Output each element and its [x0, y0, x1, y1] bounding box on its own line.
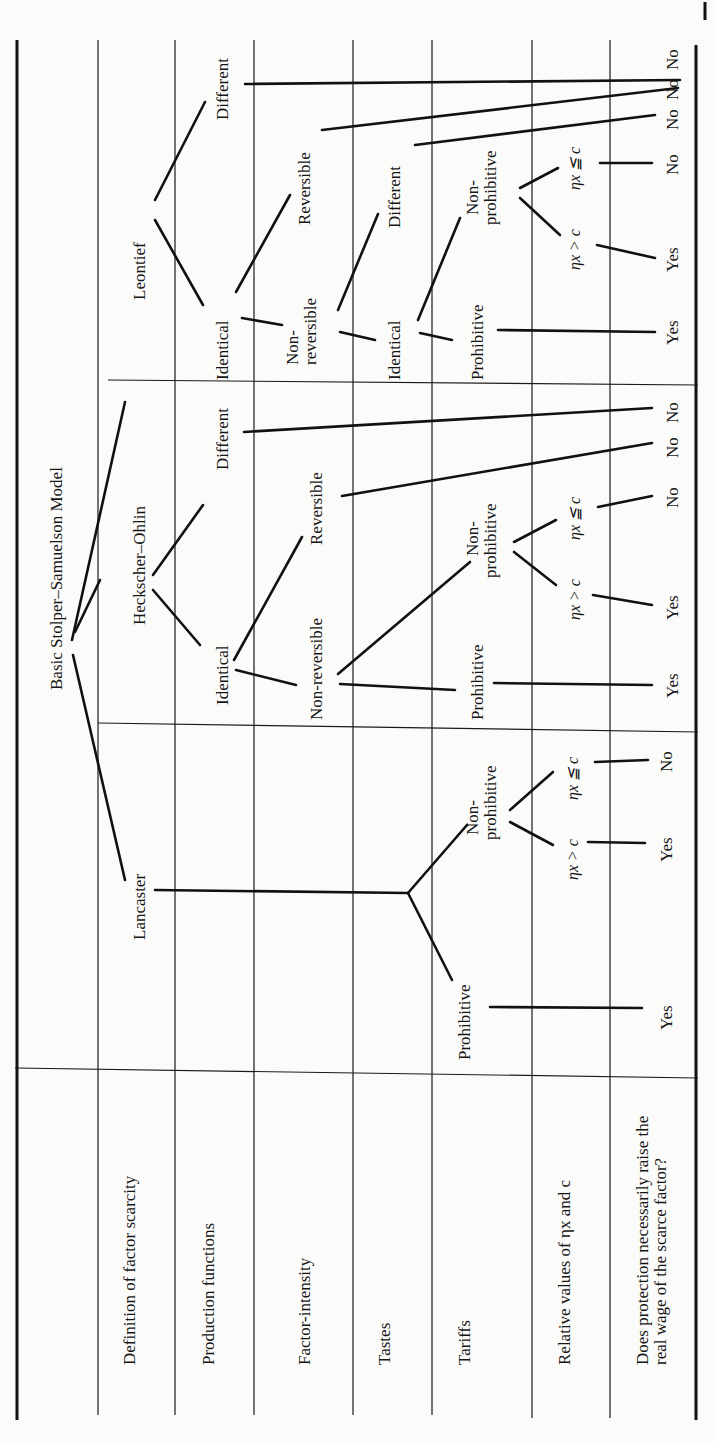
branch — [153, 505, 203, 575]
branch — [520, 168, 558, 188]
answer: Yes — [663, 595, 682, 620]
branch — [244, 408, 652, 432]
branch — [340, 332, 375, 340]
branch — [73, 655, 125, 880]
branch — [408, 825, 467, 893]
ho-nonprob-2: prohibitive — [481, 503, 500, 578]
ho-prod-different: Different — [213, 408, 232, 470]
row-label-question-2: real wage of the scarce factor? — [651, 1158, 670, 1365]
branch — [595, 760, 648, 762]
branch — [498, 330, 655, 332]
branch — [155, 102, 205, 200]
answer: Yes — [657, 1005, 676, 1030]
branch — [236, 670, 296, 685]
leontief-tastes-identical: Identical — [385, 320, 404, 380]
lancaster-answers: Yes Yes No — [657, 751, 676, 1030]
root-node: Basic Stolper–Samuelson Model — [47, 467, 66, 690]
leontief-prod-different: Different — [213, 58, 232, 120]
row-label-tastes: Tastes — [375, 1323, 394, 1365]
branch — [494, 683, 652, 685]
leontief-nonrev-2: reversible — [301, 298, 320, 365]
row-label-relative: Relative values of ηx and c — [555, 1180, 574, 1365]
branch — [593, 595, 652, 605]
leontief-section: Leontief Different Identical Reversible … — [130, 49, 682, 380]
branch — [597, 245, 655, 258]
leontief-gt: ηx > c — [566, 229, 584, 270]
branch — [598, 496, 652, 507]
leontief-reversible: Reversible — [295, 152, 314, 225]
branch — [588, 842, 645, 843]
lancaster-gt: ηx > c — [564, 839, 582, 880]
ho-prod-identical: Identical — [213, 645, 232, 705]
branch — [236, 195, 290, 292]
branch — [415, 115, 655, 145]
leontief-node: Leontief — [130, 242, 149, 300]
row-label-question-1: Does protection necessarily raise the — [633, 1116, 652, 1365]
answer: No — [663, 79, 682, 100]
branch — [420, 333, 452, 340]
ho-nonprob-1: Non- — [463, 521, 482, 556]
branch — [342, 443, 652, 496]
branch — [338, 562, 470, 674]
ho-node: Heckscher–Ohlin — [130, 506, 149, 625]
answer: No — [663, 487, 682, 508]
leontief-le: ηx ≦ c — [566, 147, 584, 190]
ho-answers: Yes Yes No No No — [663, 402, 682, 698]
branch — [418, 218, 460, 320]
row-label-production: Production functions — [199, 1223, 218, 1365]
branch — [155, 890, 408, 893]
leontief-nonprob-1: Non- — [463, 180, 482, 215]
answer: No — [663, 49, 682, 70]
ho-prohibitive: Prohibitive — [468, 644, 487, 720]
branch — [514, 552, 556, 585]
branch — [408, 893, 452, 980]
branch — [520, 198, 560, 235]
row-labels: Definition of factor scarcity Production… — [120, 1116, 670, 1365]
leontief-nonrev-1: Non- — [283, 330, 302, 365]
leontief-prod-identical: Identical — [213, 320, 232, 380]
lancaster-nonprob-2: prohibitive — [481, 765, 500, 840]
ho-reversible: Reversible — [307, 472, 326, 545]
branch — [490, 1007, 642, 1008]
lancaster-le: ηx ≦ c — [564, 757, 582, 800]
answer: No — [663, 154, 682, 175]
answer: No — [663, 109, 682, 130]
lancaster-section: Lancaster Non- prohibitive Prohibitive η… — [130, 751, 676, 1060]
branch — [234, 537, 302, 660]
stolper-samuelson-decision-tree: Definition of factor scarcity Production… — [0, 0, 715, 1442]
ho-non-reversible: Non-reversible — [307, 618, 326, 720]
branch — [242, 318, 282, 325]
answer: Yes — [663, 320, 682, 345]
branch — [155, 220, 203, 305]
heckscher-ohlin-section: Heckscher–Ohlin Different Identical Reve… — [130, 402, 682, 720]
answer: Yes — [663, 247, 682, 272]
leontief-prohibitive: Prohibitive — [468, 304, 487, 380]
branch — [322, 88, 678, 130]
section-divider-labels — [15, 1068, 698, 1078]
leontief-nonprob-2: prohibitive — [481, 150, 500, 225]
branch — [245, 80, 680, 84]
leontief-answers: Yes Yes No No No No — [663, 49, 682, 345]
answer: Yes — [657, 837, 676, 862]
branch — [340, 684, 455, 690]
branch — [153, 590, 200, 645]
lancaster-prohibitive: Prohibitive — [455, 984, 474, 1060]
row-label-definition: Definition of factor scarcity — [120, 1175, 139, 1365]
lancaster-node: Lancaster — [130, 874, 149, 940]
answer: No — [663, 437, 682, 458]
leontief-tastes-different: Different — [385, 166, 404, 228]
answer: Yes — [663, 673, 682, 698]
branch — [514, 520, 556, 542]
ho-gt: ηx > c — [566, 579, 584, 620]
row-label-tariffs: Tariffs — [455, 1320, 474, 1365]
ho-le: ηx ≦ c — [566, 497, 584, 540]
answer: No — [663, 402, 682, 423]
section-divider-ho-lancaster — [98, 723, 698, 732]
answer: No — [657, 751, 676, 772]
lancaster-nonprob-1: Non- — [463, 800, 482, 835]
branch — [338, 214, 378, 310]
row-label-intensity: Factor-intensity — [295, 1257, 314, 1365]
